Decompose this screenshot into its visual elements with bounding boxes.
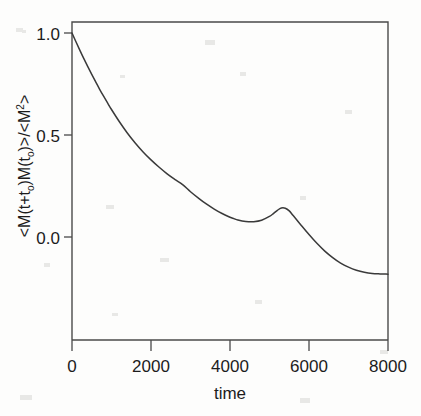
y-axis-title: <M(t+to)M(to)>/<M2> xyxy=(15,95,36,238)
x-tick-label-3: 4000 xyxy=(211,357,249,376)
x-tick-label-1: 0 xyxy=(67,357,76,376)
y-axis-ticks xyxy=(64,33,72,237)
y-tick-label-3: 0.0 xyxy=(36,229,60,248)
y-axis-title-part1: <M(t+t xyxy=(16,190,33,237)
chart-canvas: 1.0 0.5 0.0 0 2000 4000 6000 8000 time <… xyxy=(0,0,421,416)
x-tick-label-5: 8000 xyxy=(369,357,407,376)
x-tick-label-2: 2000 xyxy=(132,357,170,376)
x-axis-title: time xyxy=(214,384,246,403)
chart-figure: 1.0 0.5 0.0 0 2000 4000 6000 8000 time <… xyxy=(0,0,421,416)
x-axis-ticks xyxy=(72,340,388,351)
autocorrelation-curve xyxy=(72,33,388,274)
y-axis-title-part2: )M(t xyxy=(16,156,33,185)
x-tick-label-4: 6000 xyxy=(290,357,328,376)
y-tick-label-2: 0.5 xyxy=(36,127,60,146)
y-tick-label-1: 1.0 xyxy=(36,25,60,44)
y-axis-title-part4: > xyxy=(16,95,33,104)
plot-frame xyxy=(72,22,388,340)
y-axis-title-part3: )>/<M xyxy=(16,110,33,152)
